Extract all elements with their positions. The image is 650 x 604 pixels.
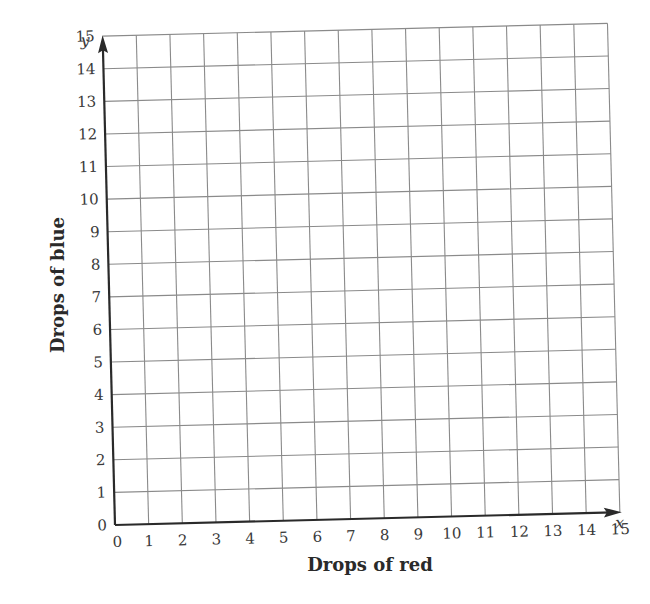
grid-line-vertical — [170, 34, 182, 523]
y-tick-label: 1 — [96, 484, 106, 502]
x-tick-label: 12 — [510, 523, 530, 541]
y-axis-variable: y — [79, 30, 90, 49]
x-tick-label: 8 — [380, 526, 390, 544]
grid-line-horizontal — [109, 284, 614, 297]
coordinate-grid-chart: 0123456789101112131415012345678910111213… — [0, 0, 650, 604]
y-tick-label: 4 — [94, 386, 104, 404]
x-tick-label: 11 — [476, 523, 496, 541]
grid-line-horizontal — [106, 154, 611, 167]
y-tick-label: 6 — [92, 321, 102, 339]
x-tick-label: 7 — [346, 527, 356, 545]
grid-line-vertical — [271, 32, 283, 521]
y-axis-title: Drops of blue — [47, 217, 68, 353]
grid-line-vertical — [204, 34, 216, 523]
x-tick-label: 6 — [312, 528, 322, 546]
grid-line-horizontal — [110, 317, 615, 330]
grid-line-vertical — [574, 24, 586, 513]
grid-line-vertical — [237, 33, 249, 522]
y-tick-label: 14 — [76, 60, 96, 78]
grid-line-vertical — [540, 25, 552, 514]
grid-line-horizontal — [103, 23, 608, 36]
grid-line-vertical — [338, 30, 350, 519]
grid-line-horizontal — [103, 56, 608, 69]
y-tick-label: 5 — [93, 353, 103, 371]
x-tick-label: 14 — [577, 521, 597, 539]
y-tick-label: 10 — [79, 190, 99, 208]
grid-line-vertical — [607, 23, 619, 512]
y-tick-label: 7 — [91, 288, 101, 306]
x-axis-title: Drops of red — [307, 554, 433, 575]
x-axis-variable: x — [615, 513, 625, 532]
x-tick-label: 2 — [178, 531, 188, 549]
grid-line-horizontal — [108, 219, 613, 232]
plot-area: 0123456789101112131415012345678910111213… — [75, 14, 630, 552]
x-tick-label: 0 — [112, 533, 122, 551]
grid-line-vertical — [372, 29, 384, 518]
x-tick-label: 1 — [144, 532, 154, 550]
grid-line-horizontal — [112, 382, 617, 395]
x-tick-label: 5 — [279, 529, 289, 547]
grid-line-horizontal — [114, 480, 619, 493]
grid-line-horizontal — [108, 252, 613, 265]
y-tick-label: 11 — [79, 158, 99, 176]
x-tick-label: 3 — [211, 530, 221, 548]
grid-line-vertical — [506, 26, 518, 515]
x-axis — [115, 512, 613, 525]
grid-line-vertical — [305, 31, 317, 520]
y-tick-label: 0 — [97, 516, 107, 534]
grid-line-horizontal — [113, 447, 618, 460]
x-tick-label: 13 — [543, 522, 563, 540]
grid-line-horizontal — [105, 121, 610, 134]
x-tick-label: 4 — [245, 529, 255, 547]
y-tick-label: 3 — [95, 418, 105, 436]
y-tick-label: 8 — [91, 255, 101, 273]
grid-line-vertical — [439, 28, 451, 517]
grid-line-vertical — [406, 28, 418, 517]
y-tick-label: 9 — [90, 223, 100, 241]
y-tick-label: 2 — [96, 451, 106, 469]
grid-line-horizontal — [104, 89, 609, 102]
x-tick-label: 9 — [413, 525, 423, 543]
grid-line-horizontal — [111, 349, 616, 362]
y-tick-label: 12 — [78, 125, 98, 143]
grid-lines — [103, 23, 620, 525]
y-tick-label: 13 — [77, 93, 97, 111]
grid-line-horizontal — [113, 414, 618, 427]
grid-line-vertical — [136, 35, 148, 524]
x-tick-label: 10 — [442, 524, 462, 542]
grid-line-horizontal — [107, 186, 612, 199]
grid-line-vertical — [473, 27, 485, 516]
